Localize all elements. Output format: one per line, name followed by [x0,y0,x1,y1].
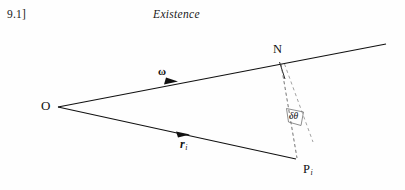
dashed-line-N-to-displaced [285,64,314,142]
geometry-figure: O N ω ri Pi δθ [0,0,405,190]
angle-label-delta-theta: δθ [289,112,298,122]
point-label-P-subscript: i [310,168,312,177]
vector-label-r-i: ri [180,138,187,152]
omega-arrowhead-icon [164,78,178,85]
vector-label-r-base: r [180,137,185,151]
point-label-N: N [273,43,282,56]
point-label-P-base: P [303,162,310,176]
figure-canvas [0,0,405,190]
textbook-page: 9.1] Existence O N ω ri Pi [0,0,405,190]
point-label-P-i: Pi [303,163,313,177]
point-label-O: O [41,99,50,112]
vector-label-omega: ω [158,66,166,77]
omega-ray-line [58,44,386,107]
vector-label-r-subscript: i [185,143,187,152]
